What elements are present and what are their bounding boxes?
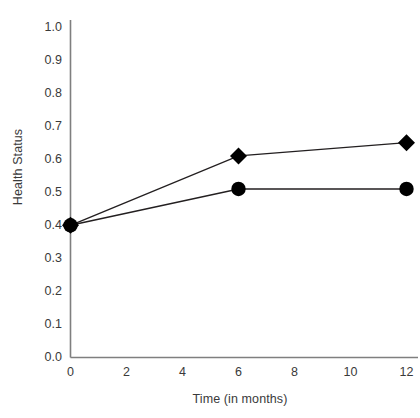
x-axis-title: Time (in months) (120, 392, 360, 406)
data-point-marker-diamond (230, 147, 247, 164)
x-tick-label: 2 (112, 366, 142, 379)
data-point-marker-diamond (398, 134, 415, 151)
x-tick-label: 0 (56, 366, 86, 379)
series-layer (62, 134, 415, 234)
data-point-marker-circle (231, 182, 245, 196)
data-point-marker-circle (399, 182, 413, 196)
x-tick-label: 10 (336, 366, 366, 379)
x-tick-label: 12 (392, 366, 420, 379)
plot-area (0, 0, 420, 418)
data-point-marker-circle (63, 218, 77, 232)
x-tick-label: 4 (168, 366, 198, 379)
chart-container: Health Status 1.0 0.9 0.8 0.7 0.6 0.5 0.… (0, 0, 420, 418)
x-tick-label: 8 (280, 366, 310, 379)
x-tick-label: 6 (224, 366, 254, 379)
